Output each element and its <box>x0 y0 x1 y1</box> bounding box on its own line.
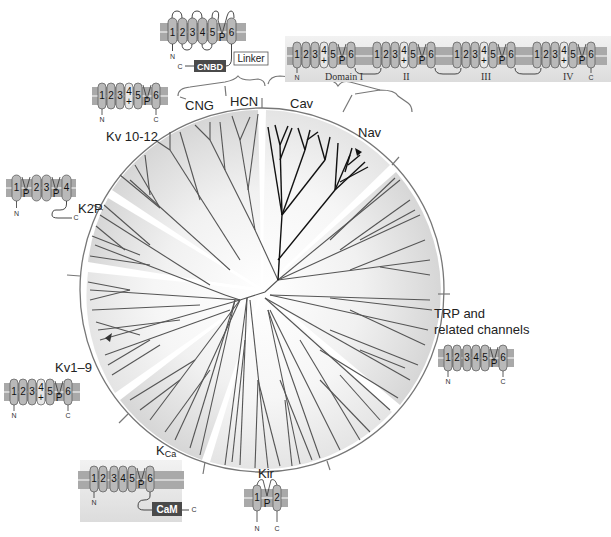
svg-text:4: 4 <box>473 352 479 363</box>
clade-label-trp-line1: TRP and <box>434 306 485 321</box>
svg-text:P: P <box>56 392 63 403</box>
svg-text:4: 4 <box>64 182 70 193</box>
svg-text:2: 2 <box>180 27 186 38</box>
n-terminus: N <box>170 53 175 60</box>
svg-text:1: 1 <box>254 492 260 503</box>
cam-label: CaM <box>156 504 177 515</box>
topology-k2p-channel: 1P 23 P4 N C <box>6 175 79 221</box>
clade-label-cng: CNG <box>185 98 214 113</box>
domain-label-3: III <box>481 71 491 82</box>
topology-trp-channel: 123 45P6 N C <box>438 345 514 385</box>
clade-label-trp-line2: related channels <box>434 322 530 337</box>
svg-text:4: 4 <box>120 473 126 484</box>
svg-text:2: 2 <box>383 49 389 60</box>
domain-label-2: II <box>403 71 410 82</box>
svg-text:C: C <box>500 378 505 385</box>
clade-label-k2p: K2P <box>78 201 103 216</box>
svg-text:3: 3 <box>111 473 117 484</box>
svg-text:+: + <box>481 55 487 66</box>
topology-kca-channel: 123 45P6 N CaM C <box>78 460 197 522</box>
svg-text:4: 4 <box>200 27 206 38</box>
c-terminus: C <box>588 74 593 81</box>
svg-text:P: P <box>23 188 30 199</box>
topology-kir-channel: 1 P 2 N C <box>244 480 288 532</box>
svg-text:3: 3 <box>392 49 398 60</box>
svg-text:P: P <box>419 55 426 66</box>
clade-label-hcn: HCN <box>230 94 258 109</box>
svg-text:P: P <box>339 55 346 66</box>
svg-text:N: N <box>11 412 16 419</box>
svg-text:2: 2 <box>463 49 469 60</box>
svg-text:1: 1 <box>14 182 20 193</box>
svg-text:1: 1 <box>454 49 460 60</box>
svg-text:2: 2 <box>34 182 40 193</box>
svg-text:N: N <box>445 378 450 385</box>
svg-text:1: 1 <box>534 49 540 60</box>
svg-text:C: C <box>191 506 196 513</box>
svg-text:+: + <box>321 55 327 66</box>
svg-text:6: 6 <box>500 352 506 363</box>
svg-text:C: C <box>274 525 279 532</box>
svg-text:3: 3 <box>312 49 318 60</box>
domain-label-1: Domain I <box>325 71 363 82</box>
svg-text:3: 3 <box>464 352 470 363</box>
svg-text:3: 3 <box>29 386 35 397</box>
clade-label-kv1-9: Kv1–9 <box>55 360 92 375</box>
clade-label-kir: Kir <box>258 466 275 481</box>
topology-cnbd-channel: 1 2 3 4 5 P 6 N Linker CNBD C <box>160 11 268 72</box>
c-terminus: C <box>177 63 182 70</box>
svg-text:P: P <box>144 96 151 107</box>
n-terminus: N <box>294 74 299 81</box>
svg-text:N: N <box>91 499 96 506</box>
cnbd-label: CNBD <box>197 62 223 72</box>
svg-text:6: 6 <box>428 49 434 60</box>
svg-text:N: N <box>99 116 104 123</box>
svg-text:C: C <box>153 116 158 123</box>
svg-text:2: 2 <box>100 473 106 484</box>
svg-text:1: 1 <box>170 27 176 38</box>
svg-text:1: 1 <box>294 49 300 60</box>
svg-text:5: 5 <box>570 49 576 60</box>
svg-text:5: 5 <box>410 49 416 60</box>
svg-text:P: P <box>138 479 145 490</box>
svg-text:6: 6 <box>65 386 71 397</box>
svg-text:5: 5 <box>135 90 141 101</box>
svg-text:2: 2 <box>543 49 549 60</box>
svg-text:+: + <box>38 392 44 403</box>
svg-text:1: 1 <box>445 352 451 363</box>
svg-text:+: + <box>561 55 567 66</box>
svg-text:N: N <box>254 525 259 532</box>
svg-text:1: 1 <box>99 90 105 101</box>
clade-sectors <box>86 108 441 469</box>
svg-text:+: + <box>401 55 407 66</box>
svg-text:3: 3 <box>190 27 196 38</box>
clade-label-nav: Nav <box>358 125 382 140</box>
svg-text:N: N <box>14 210 19 217</box>
svg-text:2: 2 <box>20 386 26 397</box>
svg-text:1: 1 <box>11 386 17 397</box>
clade-label-cav: Cav <box>290 96 314 111</box>
svg-text:6: 6 <box>508 49 514 60</box>
svg-text:2: 2 <box>274 492 280 503</box>
svg-text:2: 2 <box>303 49 309 60</box>
svg-text:5: 5 <box>482 352 488 363</box>
svg-text:3: 3 <box>117 90 123 101</box>
svg-text:P: P <box>499 55 506 66</box>
svg-text:3: 3 <box>472 49 478 60</box>
ion-channel-phylogeny-diagram: CNG HCN Cav Nav Kv 10-12 K2P Kv1–9 KCa K… <box>0 0 611 537</box>
svg-text:3: 3 <box>552 49 558 60</box>
svg-text:+: + <box>126 96 132 107</box>
svg-text:6: 6 <box>588 49 594 60</box>
svg-text:C: C <box>65 412 70 419</box>
svg-text:5: 5 <box>47 386 53 397</box>
svg-text:C: C <box>73 214 78 221</box>
topology-kv10-12-channel: 123 4+ 5P6 N C <box>92 83 168 123</box>
svg-text:5: 5 <box>490 49 496 60</box>
svg-text:5: 5 <box>129 473 135 484</box>
topology-kv1-9-channel: 123 4+ 5P6 N C <box>4 379 80 419</box>
linker-label: Linker <box>237 53 265 64</box>
phylogenetic-tree <box>67 98 450 474</box>
svg-text:2: 2 <box>108 90 114 101</box>
svg-text:P: P <box>579 55 586 66</box>
svg-text:6: 6 <box>229 27 235 38</box>
